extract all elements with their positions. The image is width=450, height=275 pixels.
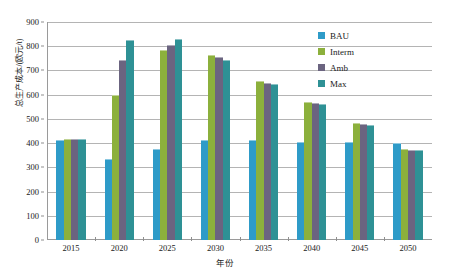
bar-bau-2035	[249, 140, 256, 240]
bar-chart: 总生产成本/(欧元/t) 010020030040050060070080090…	[0, 0, 450, 275]
bar-highlight	[297, 142, 304, 143]
y-tick-mark	[41, 167, 44, 168]
bar-interm-2020	[112, 95, 119, 240]
x-tick-mark	[384, 237, 385, 241]
bar-max-2035	[271, 84, 278, 240]
bar-amb-2020	[119, 60, 126, 241]
x-tick-label: 2050	[399, 243, 416, 253]
bar-highlight	[256, 81, 263, 82]
bar-group	[393, 22, 422, 240]
x-tick-mark	[143, 237, 144, 241]
bar-highlight	[264, 83, 271, 84]
y-tick-label: 0	[35, 235, 39, 245]
bar-highlight	[393, 143, 400, 144]
bar-highlight	[56, 140, 63, 141]
bar-highlight	[215, 57, 222, 58]
legend-label: Amb	[330, 63, 348, 73]
bar-max-2030	[223, 60, 230, 241]
y-tick-label: 400	[26, 138, 39, 148]
bar-highlight	[345, 142, 352, 143]
bar-highlight	[304, 102, 311, 103]
y-tick-mark	[41, 143, 44, 144]
bar-highlight	[64, 139, 71, 140]
y-tick-label: 100	[26, 211, 39, 221]
x-axis-tick-labels: 20152020202520302035204020452050	[47, 241, 432, 257]
bar-highlight	[415, 150, 422, 151]
bar-highlight	[71, 139, 78, 140]
bar-amb-2035	[264, 83, 271, 240]
bar-highlight	[401, 149, 408, 150]
bar-highlight	[160, 50, 167, 51]
bar-amb-2050	[408, 150, 415, 240]
bar-amb-2045	[360, 124, 367, 240]
y-tick-mark	[41, 22, 44, 23]
x-tick-label: 2015	[63, 243, 80, 253]
x-tick-mark	[240, 237, 241, 241]
x-tick-mark	[288, 237, 289, 241]
bar-highlight	[78, 139, 85, 140]
bar-max-2025	[175, 39, 182, 240]
bar-highlight	[153, 149, 160, 150]
legend-swatch-icon	[318, 80, 325, 87]
legend-item-amb[interactable]: Amb	[318, 60, 388, 75]
y-tick-mark	[41, 94, 44, 95]
bar-interm-2030	[208, 55, 215, 240]
bar-group	[153, 22, 182, 240]
y-tick-label: 900	[26, 17, 39, 27]
bar-highlight	[223, 60, 230, 61]
legend-item-max[interactable]: Max	[318, 76, 388, 91]
x-tick-label: 2045	[351, 243, 368, 253]
bar-max-2045	[367, 125, 374, 241]
y-tick-label: 800	[26, 41, 39, 51]
bar-highlight	[367, 125, 374, 126]
y-tick-mark	[41, 240, 44, 241]
y-tick-label: 200	[26, 187, 39, 197]
bar-interm-2025	[160, 50, 167, 240]
bar-amb-2040	[312, 103, 319, 240]
y-tick-label: 700	[26, 65, 39, 75]
y-tick-label: 500	[26, 114, 39, 124]
bar-group	[56, 22, 85, 240]
x-tick-mark	[95, 237, 96, 241]
legend-label: Max	[330, 79, 347, 89]
bar-highlight	[319, 104, 326, 105]
legend-swatch-icon	[318, 32, 325, 39]
x-tick-label: 2040	[303, 243, 320, 253]
bar-highlight	[208, 55, 215, 56]
bar-bau-2040	[297, 142, 304, 240]
bar-highlight	[112, 95, 119, 96]
bar-interm-2040	[304, 102, 311, 240]
bar-highlight	[119, 60, 126, 61]
bar-highlight	[175, 39, 182, 40]
legend-label: BAU	[330, 31, 349, 41]
legend-item-interm[interactable]: Interm	[318, 44, 388, 59]
x-tick-label: 2035	[255, 243, 272, 253]
bar-highlight	[312, 103, 319, 104]
bar-highlight	[360, 124, 367, 125]
legend-item-bau[interactable]: BAU	[318, 28, 388, 43]
bar-interm-2050	[401, 149, 408, 240]
bar-max-2040	[319, 104, 326, 240]
x-axis-title: 年份	[0, 256, 450, 268]
legend: BAUIntermAmbMax	[318, 28, 388, 92]
bar-group	[201, 22, 230, 240]
bar-highlight	[126, 40, 133, 41]
bar-interm-2015	[64, 139, 71, 240]
bar-group	[249, 22, 278, 240]
y-tick-mark	[41, 118, 44, 119]
y-tick-mark	[41, 191, 44, 192]
y-tick-label: 300	[26, 162, 39, 172]
y-tick-label: 600	[26, 90, 39, 100]
bar-highlight	[271, 84, 278, 85]
bar-amb-2025	[167, 45, 174, 240]
bar-bau-2045	[345, 142, 352, 240]
bar-highlight	[408, 150, 415, 151]
y-tick-mark	[41, 70, 44, 71]
bar-interm-2035	[256, 81, 263, 240]
bar-amb-2030	[215, 57, 222, 240]
legend-label: Interm	[330, 47, 354, 57]
legend-swatch-icon	[318, 48, 325, 55]
bar-bau-2020	[105, 159, 112, 240]
x-tick-mark	[336, 237, 337, 241]
bar-bau-2030	[201, 140, 208, 241]
